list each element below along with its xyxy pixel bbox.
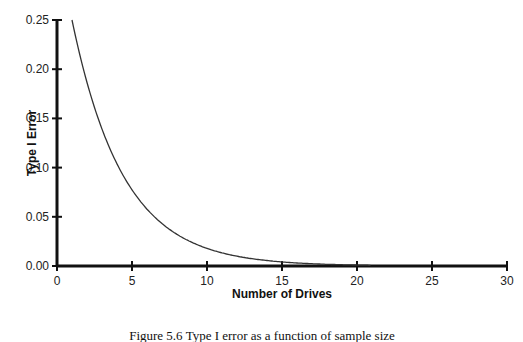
x-tick-label: 15 <box>275 274 289 288</box>
chart: 0.000.050.100.150.200.25 051015202530 Ty… <box>0 0 523 342</box>
x-tick-label: 30 <box>500 274 514 288</box>
x-axis: 051015202530 <box>54 261 514 288</box>
y-tick-label: 0.00 <box>26 259 50 273</box>
x-tick-label: 25 <box>425 274 439 288</box>
x-tick-label: 0 <box>54 274 61 288</box>
x-tick-label: 5 <box>129 274 136 288</box>
y-tick-label: 0.25 <box>26 13 50 27</box>
y-tick-label: 0.20 <box>26 62 50 76</box>
y-axis-label: Type I Error <box>25 109 39 176</box>
x-tick-label: 20 <box>350 274 364 288</box>
figure-caption: Figure 5.6 Type I error as a function of… <box>129 328 395 342</box>
y-tick-label: 0.05 <box>26 210 50 224</box>
type-i-error-curve <box>72 20 371 265</box>
x-axis-label: Number of Drives <box>232 287 332 301</box>
x-tick-label: 10 <box>200 274 214 288</box>
